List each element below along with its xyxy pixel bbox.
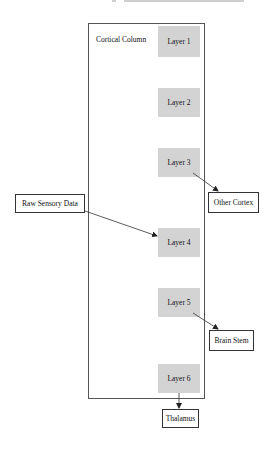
edge-layer5-to-brain-stem bbox=[193, 313, 218, 329]
edge-layer3-to-other-cortex bbox=[193, 173, 218, 191]
edges-layer bbox=[0, 0, 270, 450]
edge-raw-to-layer4 bbox=[85, 211, 157, 236]
